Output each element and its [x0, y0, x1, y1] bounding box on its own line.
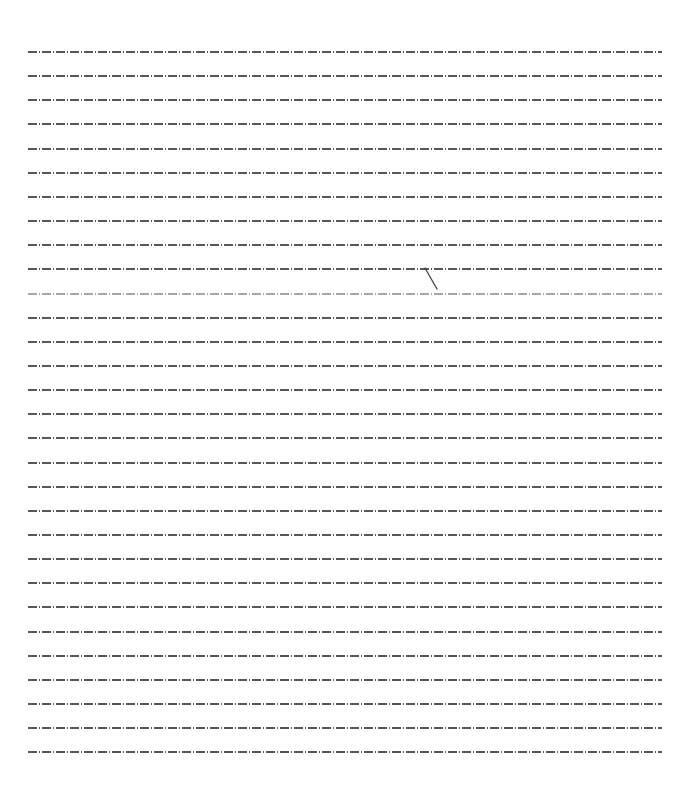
lined-paper-page	[0, 0, 687, 791]
pen-stroke-mark	[0, 0, 687, 791]
